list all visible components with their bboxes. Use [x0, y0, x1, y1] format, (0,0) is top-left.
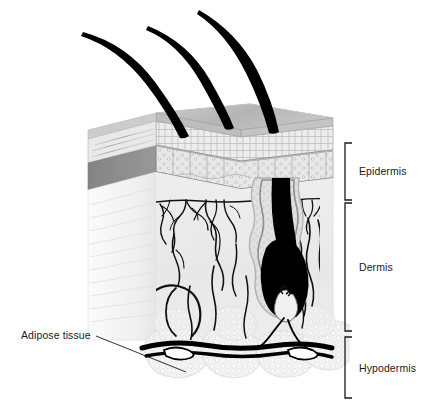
block-left-side-face	[88, 113, 156, 340]
label-epidermis: Epidermis	[359, 165, 407, 177]
label-dermis: Dermis	[359, 261, 393, 273]
label-adipose-tissue: Adipose tissue	[21, 329, 91, 341]
label-hypodermis: Hypodermis	[359, 362, 416, 374]
skin-anatomy-figure: Epidermis Dermis Hypodermis Adipose tiss…	[0, 0, 432, 419]
bracket-epidermis	[345, 143, 352, 200]
skin-cross-section-illustration	[0, 0, 432, 419]
bracket-dermis	[345, 203, 352, 331]
